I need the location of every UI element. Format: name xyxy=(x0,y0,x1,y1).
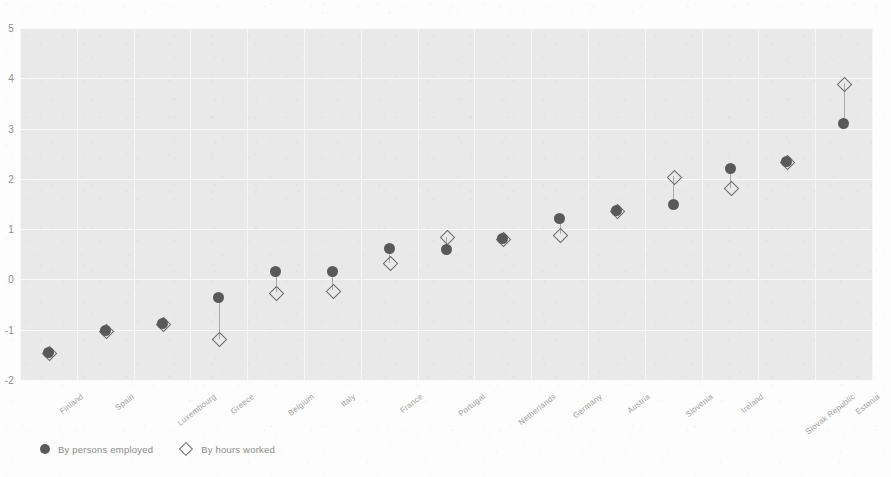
data-point-persons-employed[interactable] xyxy=(781,156,792,167)
chart-legend: By persons employedBy hours worked xyxy=(40,443,275,455)
x-axis-tick-label: Germany xyxy=(571,392,604,420)
x-axis-tick-label: Finland xyxy=(58,392,85,416)
gridline-vertical xyxy=(758,28,759,380)
data-point-hours-worked[interactable] xyxy=(666,170,682,186)
gridline-vertical xyxy=(134,28,135,380)
legend-item[interactable]: By hours worked xyxy=(179,443,275,455)
gridline-vertical xyxy=(304,28,305,380)
gridline-horizontal xyxy=(20,179,872,180)
y-axis-tick-label: 3 xyxy=(8,123,14,134)
gridline-vertical xyxy=(702,28,703,380)
x-axis-tick-label: Slovak Republic xyxy=(804,392,857,436)
x-axis-tick-label: Austria xyxy=(626,392,652,415)
data-point-persons-employed[interactable] xyxy=(441,244,452,255)
data-point-persons-employed[interactable] xyxy=(497,233,508,244)
gridline-vertical xyxy=(418,28,419,380)
x-axis-tick-label: Spain xyxy=(114,392,136,412)
data-point-persons-employed[interactable] xyxy=(838,118,849,129)
data-point-persons-employed[interactable] xyxy=(100,325,111,336)
x-axis-tick-label: Greece xyxy=(229,392,256,416)
data-point-hours-worked[interactable] xyxy=(382,256,398,272)
legend-item-label: By persons employed xyxy=(58,444,153,455)
gridline-vertical xyxy=(361,28,362,380)
gridline-vertical xyxy=(645,28,646,380)
legend-item-label: By hours worked xyxy=(201,444,275,455)
gridline-horizontal xyxy=(20,129,872,130)
data-point-persons-employed[interactable] xyxy=(668,199,679,210)
data-point-persons-employed[interactable] xyxy=(327,266,338,277)
y-axis-tick-label: 2 xyxy=(8,173,14,184)
y-axis-tick-label: 1 xyxy=(8,224,14,235)
data-point-persons-employed[interactable] xyxy=(384,243,395,254)
x-axis-tick-label: Portugal xyxy=(457,392,487,418)
open-diamond-icon xyxy=(179,442,193,456)
data-point-hours-worked[interactable] xyxy=(269,285,285,301)
x-axis-tick-label: Ireland xyxy=(739,392,765,415)
data-point-hours-worked[interactable] xyxy=(326,284,342,300)
gridline-vertical xyxy=(588,28,589,380)
data-point-persons-employed[interactable] xyxy=(43,347,54,358)
gridline-horizontal xyxy=(20,28,872,29)
data-point-persons-employed[interactable] xyxy=(157,318,168,329)
x-axis-tick-label: Luxembourg xyxy=(176,392,218,428)
y-axis-tick-label: -1 xyxy=(5,324,14,335)
gridline-vertical xyxy=(815,28,816,380)
gridline-vertical xyxy=(872,28,873,380)
x-axis-tick-label: Italy xyxy=(340,392,358,409)
x-axis-tick-label: Slovenia xyxy=(684,392,715,419)
legend-item[interactable]: By persons employed xyxy=(40,444,153,455)
data-point-persons-employed[interactable] xyxy=(213,292,224,303)
data-point-hours-worked[interactable] xyxy=(723,181,739,197)
gridline-vertical xyxy=(77,28,78,380)
data-point-persons-employed[interactable] xyxy=(611,205,622,216)
gridline-horizontal xyxy=(20,279,872,280)
data-point-persons-employed[interactable] xyxy=(725,163,736,174)
gridline-vertical xyxy=(20,28,21,380)
y-axis-tick-label: 0 xyxy=(8,274,14,285)
data-point-persons-employed[interactable] xyxy=(554,213,565,224)
data-point-hours-worked[interactable] xyxy=(212,332,228,348)
gridline-vertical xyxy=(247,28,248,380)
gridline-vertical xyxy=(190,28,191,380)
x-axis-tick-label: France xyxy=(399,392,425,415)
filled-circle-icon xyxy=(40,444,50,454)
y-axis-tick-label: 4 xyxy=(8,73,14,84)
gridline-horizontal xyxy=(20,330,872,331)
chart-page: 543210-1-2 FinlandSpainLuxembourgGreeceB… xyxy=(0,0,891,477)
gridline-horizontal xyxy=(20,380,872,381)
data-point-persons-employed[interactable] xyxy=(270,266,281,277)
gridline-vertical xyxy=(531,28,532,380)
gridline-horizontal xyxy=(20,78,872,79)
gridline-vertical xyxy=(474,28,475,380)
x-axis-tick-label: Belgium xyxy=(286,392,315,418)
plot-area: 543210-1-2 xyxy=(20,28,872,380)
x-axis-tick-label: Estonia xyxy=(854,392,882,416)
x-axis-tick-label: Netherlands xyxy=(516,392,557,427)
y-axis-tick-label: 5 xyxy=(8,23,14,34)
y-axis-tick-label: -2 xyxy=(5,375,14,386)
